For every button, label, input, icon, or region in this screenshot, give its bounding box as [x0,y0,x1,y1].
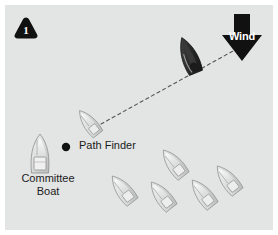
sailing-diagram: 1 Wind Path Finder Committee Boat [0,0,278,235]
step-number-text: 1 [13,23,39,37]
path-finder-label: Path Finder [79,139,136,152]
wind-arrow: Wind [220,13,264,63]
wind-label: Wind [220,30,264,42]
committee-boat-label: Committee Boat [12,172,84,197]
step-number-badge: 1 [13,16,39,40]
